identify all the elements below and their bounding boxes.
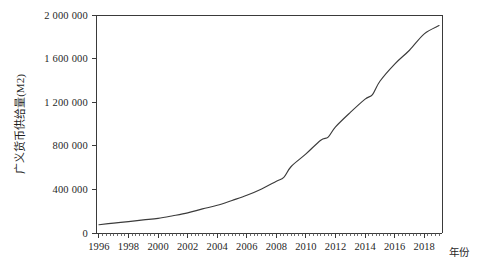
x-tick-label: 1998	[118, 241, 139, 252]
y-tick-label: 2 000 000	[44, 10, 88, 21]
x-tick-label: 2010	[295, 241, 316, 252]
chart-figure: 0400 000800 0001 200 0001 600 0002 000 0…	[0, 0, 483, 271]
y-tick-label: 800 000	[52, 140, 88, 151]
x-tick-label: 2018	[414, 241, 435, 252]
y-axis-ticks	[92, 15, 96, 233]
y-axis-title: 广义货币供给量(M2)	[13, 74, 27, 174]
series-line-m2	[99, 26, 439, 225]
y-tick-label: 400 000	[52, 184, 88, 195]
y-tick-label: 1 600 000	[44, 53, 88, 64]
x-tick-label: 2016	[384, 241, 405, 252]
plot-border	[96, 15, 442, 233]
y-tick-label: 0	[83, 228, 88, 239]
x-tick-label: 2006	[236, 241, 257, 252]
x-tick-label: 1996	[88, 241, 109, 252]
x-tick-label: 2008	[266, 241, 287, 252]
data-series-group	[99, 26, 439, 225]
y-axis-tick-labels: 0400 000800 0001 200 0001 600 0002 000 0…	[44, 10, 88, 239]
y-tick-label: 1 200 000	[44, 97, 88, 108]
plot-frame	[96, 15, 442, 233]
x-tick-label: 2002	[177, 241, 198, 252]
x-tick-label: 2000	[147, 241, 168, 252]
x-tick-label: 2012	[325, 241, 346, 252]
x-tick-label: 2004	[207, 241, 229, 252]
x-axis-tick-labels: 1996199820002002200420062008201020122014…	[88, 241, 435, 252]
x-tick-label: 2014	[354, 241, 376, 252]
x-axis-title: 年份	[449, 246, 470, 258]
m2-line-chart: 0400 000800 0001 200 0001 600 0002 000 0…	[0, 0, 483, 271]
